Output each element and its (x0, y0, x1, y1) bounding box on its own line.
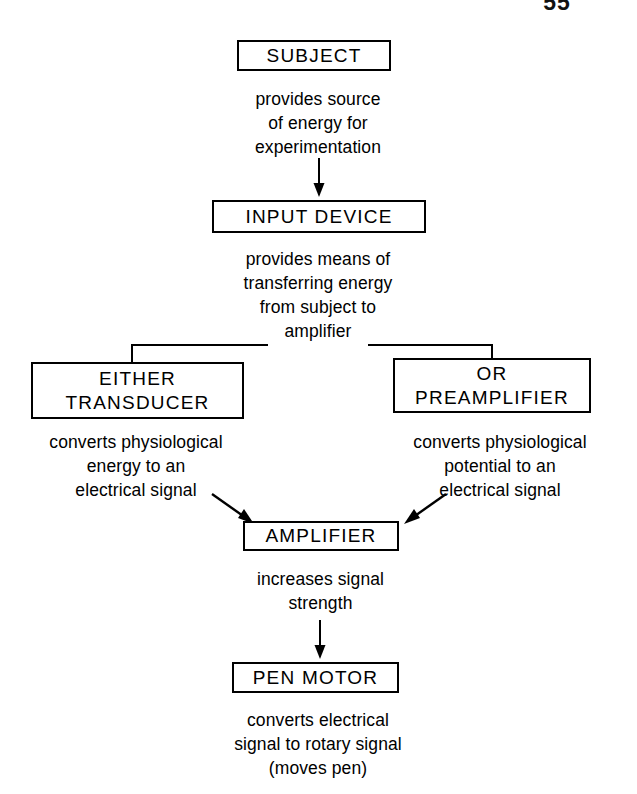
node-amplifier-label: AMPLIFIER (265, 524, 376, 547)
arrow-preamplifier-to-amplifier (396, 492, 448, 528)
node-input-device-label: INPUT DEVICE (245, 205, 392, 228)
caption-amplifier-to-penmotor: increases signal strength (208, 567, 433, 615)
node-input-device: INPUT DEVICE (212, 200, 426, 233)
node-pen-motor: PEN MOTOR (232, 662, 399, 693)
node-transducer-label-line2: TRANSDUCER (66, 391, 210, 414)
caption-subject-to-input: provides source of energy for experiment… (198, 87, 438, 159)
page-number: 55 (527, 0, 587, 16)
connector-branch-left-drop (131, 344, 133, 364)
arrow-subject-to-input (310, 158, 328, 198)
connector-branch-left-horizontal (131, 344, 268, 346)
caption-pen-motor-output: converts electrical signal to rotary sig… (178, 708, 458, 780)
node-subject: SUBJECT (237, 40, 391, 71)
node-pen-motor-label: PEN MOTOR (253, 666, 379, 689)
arrow-amplifier-to-penmotor (311, 620, 329, 660)
connector-branch-right-horizontal (368, 344, 493, 346)
node-amplifier: AMPLIFIER (243, 521, 399, 551)
node-preamplifier-label: OR (477, 362, 508, 385)
node-transducer: EITHER TRANSDUCER (31, 362, 244, 419)
diagram-page: 55 SUBJECT provides source of energy for… (0, 0, 637, 794)
caption-input-to-branch: provides means of transferring energy fr… (178, 247, 458, 344)
node-preamplifier: OR PREAMPLIFIER (393, 358, 591, 413)
node-transducer-label: EITHER (99, 367, 176, 390)
node-subject-label: SUBJECT (267, 44, 362, 67)
node-preamplifier-label-line2: PREAMPLIFIER (415, 386, 569, 409)
